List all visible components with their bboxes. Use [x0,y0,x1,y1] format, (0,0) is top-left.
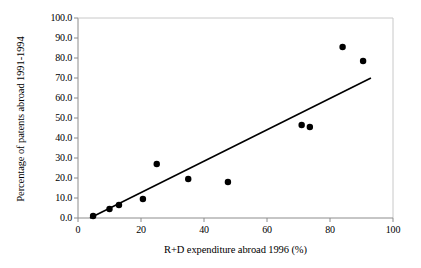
data-point-marker [185,176,191,182]
y-axis-ticks [74,18,78,218]
x-axis-ticks [78,218,393,222]
data-point-marker [116,202,122,208]
x-tick-label: 100 [378,224,408,235]
scatter-chart-figure: Percentage of patents abroad 1991-1994 0… [0,0,421,268]
x-tick-label: 60 [252,224,282,235]
data-point-marker [339,44,345,50]
data-point-marker [360,58,366,64]
plot-frame [78,18,393,218]
trend-line [90,78,371,218]
data-point-marker [140,196,146,202]
data-point-marker [90,213,96,219]
trend-line-path [90,78,371,218]
data-point-marker [154,161,160,167]
x-tick-label: 80 [315,224,345,235]
data-point-marker [298,122,304,128]
x-tick-label: 0 [63,224,93,235]
data-point-marker [307,124,313,130]
data-point-marker [225,179,231,185]
data-points [90,44,366,219]
x-tick-label: 20 [126,224,156,235]
data-point-marker [106,206,112,212]
x-tick-label: 40 [189,224,219,235]
